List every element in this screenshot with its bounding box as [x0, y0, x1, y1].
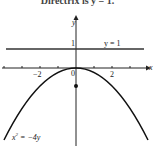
tick-label-neg2: −2 [33, 71, 42, 79]
equation-label: x2 = −4y [12, 132, 40, 142]
focus-point [74, 84, 78, 88]
directrix-label: y = 1 [104, 40, 121, 48]
y-axis-label: y [72, 19, 76, 27]
parabola-chart [0, 0, 155, 150]
tick-label-1: 1 [71, 40, 75, 48]
tick-label-2: 2 [110, 71, 114, 79]
tick-label-0: 0 [71, 70, 75, 78]
x-axis-label: x [149, 64, 153, 72]
equation-rest: = −4y [18, 133, 40, 142]
